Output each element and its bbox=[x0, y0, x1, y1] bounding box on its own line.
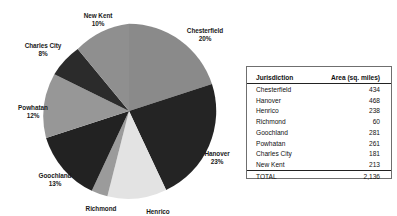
table-header-jurisdiction: Jurisdiction bbox=[247, 72, 310, 84]
area-table: Jurisdiction Area (sq. miles) Chesterfie… bbox=[247, 72, 391, 182]
pie-label-goochland-percent: 13% bbox=[28, 180, 82, 188]
pie-label-powhatan-percent: 12% bbox=[8, 112, 58, 120]
pie-label-new-kent: New Kent 10% bbox=[69, 12, 127, 28]
table-row: Hanover 468 bbox=[247, 95, 391, 106]
pie-label-charles-city-percent: 8% bbox=[14, 50, 72, 58]
table-header-row: Jurisdiction Area (sq. miles) bbox=[247, 72, 391, 84]
table-row: Charles City 181 bbox=[247, 149, 391, 160]
table-row: Chesterfield 434 bbox=[247, 84, 391, 95]
pie-label-henrico-name: Henrico bbox=[146, 208, 169, 215]
pie-label-chesterfield-name: Chesterfield bbox=[187, 27, 223, 34]
row-name: Charles City bbox=[247, 149, 310, 160]
row-value: 238 bbox=[310, 106, 391, 117]
row-value: 181 bbox=[310, 149, 391, 160]
row-value: 468 bbox=[310, 95, 391, 106]
table-row: Richmond 60 bbox=[247, 116, 391, 127]
row-name: Hanover bbox=[247, 95, 310, 106]
pie-label-goochland: Goochland 13% bbox=[28, 172, 82, 188]
pie-label-chesterfield-percent: 20% bbox=[176, 35, 234, 43]
pie-label-hanover-percent: 23% bbox=[196, 158, 238, 166]
pie-label-goochland-name: Goochland bbox=[39, 172, 72, 179]
row-value: 281 bbox=[310, 127, 391, 138]
pie-label-charles-city-name: Charles City bbox=[25, 42, 62, 49]
pie-label-hanover-name: Hanover bbox=[204, 150, 229, 157]
table-row: Powhatan 261 bbox=[247, 138, 391, 149]
row-name: Powhatan bbox=[247, 138, 310, 149]
pie-label-henrico: Henrico bbox=[133, 208, 183, 216]
row-name: Richmond bbox=[247, 116, 310, 127]
pie-chart-area: New Kent 10% Chesterfield 20% Charles Ci… bbox=[0, 0, 250, 216]
row-value: 434 bbox=[310, 84, 391, 95]
pie-label-powhatan-name: Powhatan bbox=[18, 104, 48, 111]
row-name: Goochland bbox=[247, 127, 310, 138]
table-row: New Kent 213 bbox=[247, 159, 391, 170]
row-name: New Kent bbox=[247, 159, 310, 170]
table-row: Goochland 281 bbox=[247, 127, 391, 138]
row-value: 60 bbox=[310, 116, 391, 127]
table-header-area: Area (sq. miles) bbox=[310, 72, 391, 84]
pie-label-charles-city: Charles City 8% bbox=[14, 42, 72, 58]
row-value: 261 bbox=[310, 138, 391, 149]
row-name: Henrico bbox=[247, 106, 310, 117]
row-name: Chesterfield bbox=[247, 84, 310, 95]
total-label: TOTAL bbox=[247, 171, 310, 182]
pie-label-new-kent-percent: 10% bbox=[69, 20, 127, 28]
row-value: 213 bbox=[310, 159, 391, 170]
pie-label-chesterfield: Chesterfield 20% bbox=[176, 27, 234, 43]
pie-label-new-kent-name: New Kent bbox=[84, 12, 113, 19]
table-row: Henrico 238 bbox=[247, 106, 391, 117]
jurisdiction-area-table: Jurisdiction Area (sq. miles) Chesterfie… bbox=[246, 66, 392, 179]
table-total-row: TOTAL 2,136 bbox=[247, 171, 391, 182]
pie-label-richmond: Richmond bbox=[75, 205, 127, 213]
pie-label-hanover: Hanover 23% bbox=[196, 150, 238, 166]
pie-label-powhatan: Powhatan 12% bbox=[8, 104, 58, 120]
total-value: 2,136 bbox=[310, 171, 391, 182]
pie-label-richmond-name: Richmond bbox=[86, 205, 117, 212]
